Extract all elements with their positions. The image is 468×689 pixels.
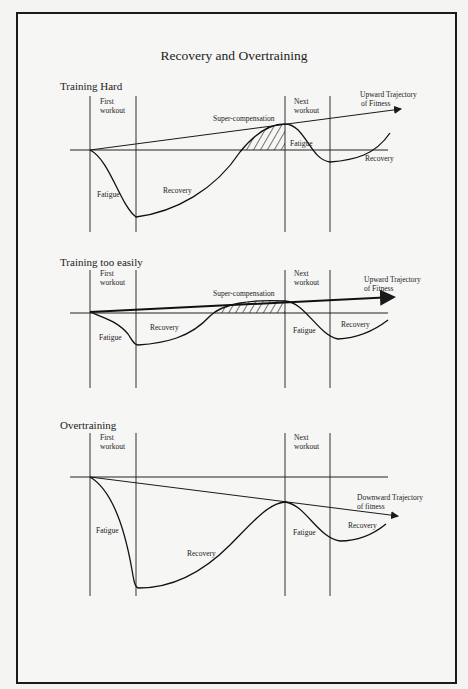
next-workout-label-line1: Next — [294, 269, 309, 278]
fatigue-label: Fatigue — [99, 333, 122, 342]
fitness-curve — [90, 477, 386, 588]
diagram-heading: Training too easily — [60, 256, 143, 268]
next-workout-label-line2: workout — [294, 106, 320, 115]
first-workout-label-line2: workout — [100, 278, 126, 287]
trajectory-label-line2: of Fitness — [364, 284, 393, 293]
recovery-label-2: Recovery — [348, 521, 377, 530]
trajectory-label-line1: Upward Trajectory — [364, 275, 421, 284]
fatigue-label: Fatigue — [97, 190, 120, 199]
next-workout-label-line1: Next — [294, 97, 309, 106]
next-workout-label-line2: workout — [294, 278, 320, 287]
trajectory-label-line2: of fitness — [357, 502, 385, 511]
first-workout-label-line1: First — [100, 97, 115, 106]
first-workout-label-line2: workout — [100, 106, 126, 115]
recovery-label-2: Recovery — [365, 154, 394, 163]
diagram-training-hard: Training Hard First workout Next workout… — [60, 80, 417, 232]
diagram-heading: Overtraining — [60, 419, 117, 431]
trajectory-label-line2: of Fitness — [361, 99, 390, 108]
recovery-label: Recovery — [150, 323, 179, 332]
next-workout-label-line2: workout — [294, 442, 320, 451]
fatigue-label-2: Fatigue — [293, 326, 316, 335]
trajectory-label-line1: Upward Trajectory — [360, 90, 417, 99]
first-workout-label-line1: First — [100, 433, 115, 442]
recovery-label: Recovery — [163, 186, 192, 195]
supercompensation-label: Super-compensation — [213, 114, 275, 123]
next-workout-label-line1: Next — [294, 433, 309, 442]
supercompensation-hatch — [240, 124, 285, 150]
fitness-curve — [90, 124, 390, 217]
fatigue-label-2: Fatigue — [290, 139, 313, 148]
recovery-diagram: Recovery and Overtraining Training Hard … — [0, 0, 468, 689]
diagram-training-too-easily: Training too easily First workout Next w… — [60, 256, 421, 388]
diagram-overtraining: Overtraining First workout Next workout … — [60, 419, 423, 596]
diagram-heading: Training Hard — [60, 80, 123, 92]
fatigue-label: Fatigue — [96, 526, 119, 535]
figure-title: Recovery and Overtraining — [161, 48, 308, 63]
supercompensation-label: Super-compensation — [213, 289, 275, 298]
first-workout-label-line1: First — [100, 269, 115, 278]
recovery-label-2: Recovery — [341, 320, 370, 329]
recovery-label: Recovery — [187, 549, 216, 558]
fatigue-label-2: Fatigue — [293, 528, 316, 537]
first-workout-label-line2: workout — [100, 442, 126, 451]
trajectory-label-line1: Downward Trajectory — [357, 493, 423, 502]
